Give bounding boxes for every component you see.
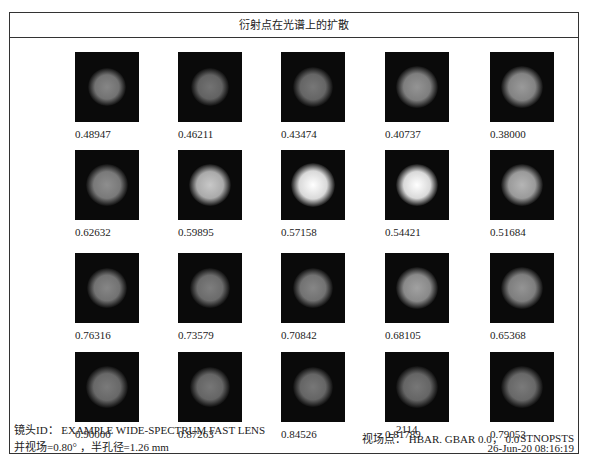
wavelength-label: 0.84526 (281, 428, 317, 440)
spot-image (385, 150, 449, 220)
diffraction-spot-icon (293, 67, 333, 107)
diffraction-spot-icon (293, 367, 333, 407)
diffraction-spot-icon (87, 268, 127, 308)
diffraction-spot-icon (501, 267, 543, 309)
spot-image (178, 352, 242, 422)
spot-image (490, 52, 554, 122)
spot-image (281, 52, 345, 122)
wavelength-label: 0.38000 (490, 128, 526, 140)
diffraction-spot-icon (88, 68, 126, 106)
wavelength-label: 0.54421 (385, 226, 421, 238)
spot-image (178, 52, 242, 122)
spot-image (385, 253, 449, 323)
wavelength-label: 0.68105 (385, 329, 421, 341)
spot-image (490, 352, 554, 422)
diffraction-spot-icon (396, 366, 438, 408)
wavelength-label: 0.43474 (281, 128, 317, 140)
spot-image (281, 352, 345, 422)
spot-image (385, 352, 449, 422)
spot-image (75, 150, 139, 220)
diffraction-spot-icon (86, 366, 128, 408)
diffraction-spot-icon (396, 164, 438, 206)
spot-image (490, 150, 554, 220)
diffraction-spot-icon (191, 68, 229, 106)
spot-image (75, 253, 139, 323)
wavelength-label: 0.65368 (490, 329, 526, 341)
lens-id-label: 镜头ID： EXAMPLE WIDE-SPECTRUM FAST LENS (14, 424, 265, 437)
diffraction-spot-icon (189, 164, 231, 206)
diffraction-spot-icon (293, 268, 333, 308)
diffraction-spot-icon (501, 66, 543, 108)
spot-image (178, 150, 242, 220)
wavelength-label: 0.62632 (75, 226, 111, 238)
wavelength-label: 0.76316 (75, 329, 111, 341)
wavelength-label: 0.51684 (490, 226, 526, 238)
diffraction-spot-icon (396, 66, 438, 108)
spot-image (281, 150, 345, 220)
wavelength-label: 0.73579 (178, 329, 214, 341)
spot-image (178, 253, 242, 323)
diffraction-spot-icon (190, 268, 230, 308)
spot-image (75, 52, 139, 122)
diffraction-spot-icon (86, 164, 128, 206)
figure-title: 衍射点在光谱上的扩散 (10, 13, 578, 38)
diffraction-spot-icon (501, 164, 543, 206)
spot-image (385, 52, 449, 122)
spot-image (281, 253, 345, 323)
diffraction-spot-icon (291, 163, 335, 207)
wavelength-label: 0.57158 (281, 226, 317, 238)
wavelength-label: 0.40737 (385, 128, 421, 140)
diffraction-spot-icon (190, 367, 230, 407)
wavelength-label: 0.46211 (178, 128, 213, 140)
timestamp: 26-Jun-20 08:16:19 (488, 442, 574, 455)
field-aperture-label: 并视场=0.80° ，半孔径=1.26 mm (14, 441, 169, 454)
diffraction-spot-icon (501, 366, 543, 408)
spot-image (490, 253, 554, 323)
spot-image (75, 352, 139, 422)
wavelength-label: 0.70842 (281, 329, 317, 341)
wavelength-label: 0.59895 (178, 226, 214, 238)
wavelength-label: 0.48947 (75, 128, 111, 140)
diffraction-spot-icon (396, 267, 438, 309)
